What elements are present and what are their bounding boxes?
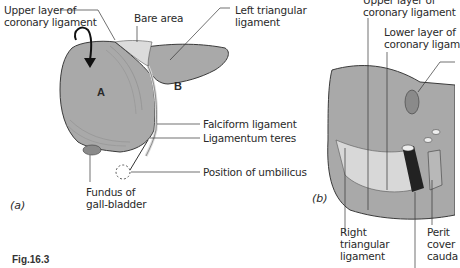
label-position-of-umbilicus: Position of umbilicus xyxy=(203,166,307,178)
label-ligamentum-teres: Ligamentum teres xyxy=(203,132,296,144)
label-bare-area: Bare area xyxy=(134,12,183,24)
label-fundus-gall-bladder: Fundus of gall-bladder xyxy=(86,186,146,210)
region-label-b: B xyxy=(174,80,182,92)
gall-bladder-fundus xyxy=(83,145,101,155)
liver-anterior-view xyxy=(60,8,230,182)
label-left-triangular-ligament: Left triangular ligament xyxy=(235,4,307,28)
label-falciform-ligament: Falciform ligament xyxy=(203,118,297,130)
umbilicus-marker xyxy=(116,165,130,179)
label-upper-layer-coronary: Upper layer of coronary ligament xyxy=(4,4,97,28)
posterior-liver-shape xyxy=(328,66,455,220)
region-label-a: A xyxy=(97,86,105,98)
label-right-triangular-ligament: Right triangular ligament xyxy=(340,226,389,262)
label-peritoneum-caudate: Perit cover cauda xyxy=(427,226,458,262)
label-lower-layer-coronary: Lower layer of coronary ligam xyxy=(384,26,460,50)
panel-label-a: (a) xyxy=(10,199,25,212)
caudate-lobe xyxy=(428,150,442,190)
label-upper-layer-coronary-b: Upper layer of coronary ligament xyxy=(363,0,456,18)
panel-label-b: (b) xyxy=(312,192,328,205)
caudate-process xyxy=(405,90,419,114)
figure-caption: Fig.16.3 xyxy=(12,254,49,265)
